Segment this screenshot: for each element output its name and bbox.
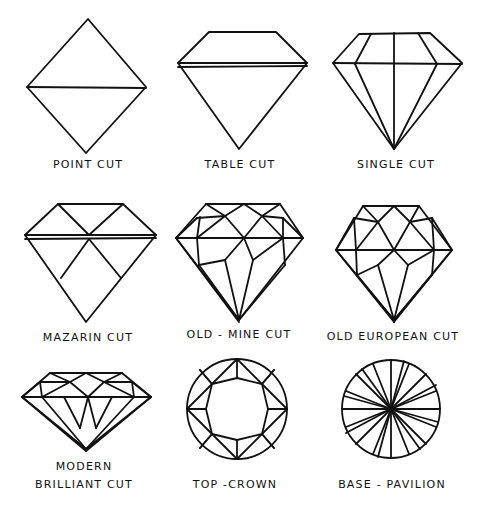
old-european-cut-drawing — [336, 206, 452, 322]
label-old-mine-cut: OLD - MINE CUT — [187, 328, 292, 342]
label-mazarin-cut: MAZARIN CUT — [43, 331, 133, 345]
label-table-cut: TABLE CUT — [205, 158, 276, 172]
label-point-cut: POINT CUT — [53, 158, 123, 172]
label-old-european-cut: OLD EUROPEAN CUT — [327, 330, 460, 344]
label-modern-brilliant-line1: MODERN — [56, 460, 113, 474]
base-pavilion-drawing — [342, 360, 440, 458]
single-cut-drawing — [333, 33, 462, 149]
point-cut-drawing — [27, 19, 146, 153]
mazarin-cut-drawing — [25, 204, 156, 322]
label-top-crown: TOP -CROWN — [193, 478, 278, 492]
top-crown-drawing — [187, 359, 287, 459]
old-mine-cut-drawing — [176, 204, 303, 322]
table-cut-drawing — [178, 32, 307, 149]
label-modern-brilliant-line2: BRILLIANT CUT — [35, 478, 133, 492]
label-single-cut: SINGLE CUT — [357, 158, 435, 172]
label-base-pavilion: BASE - PAVILION — [338, 478, 446, 492]
modern-brilliant-cut-drawing — [22, 373, 151, 451]
diamond-cuts-diagram — [0, 0, 487, 518]
